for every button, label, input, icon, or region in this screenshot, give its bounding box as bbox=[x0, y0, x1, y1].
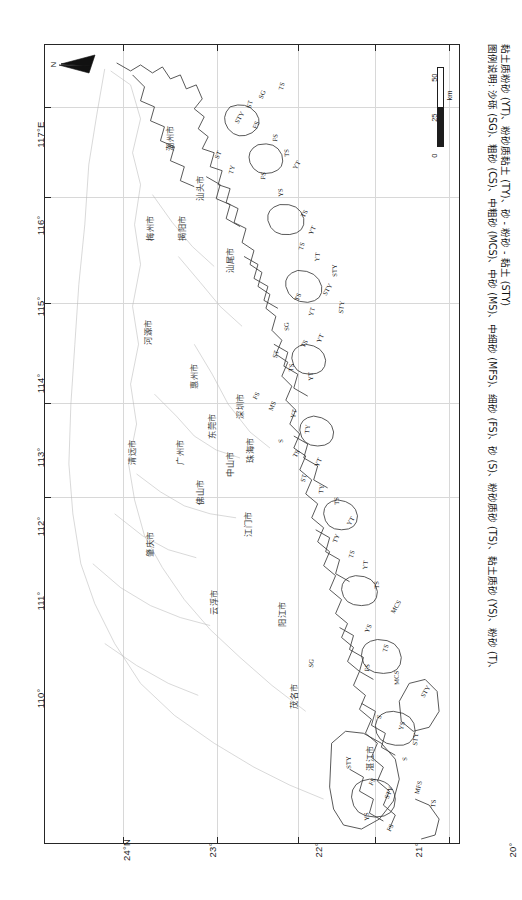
longitude-tick-label: 117°E bbox=[35, 122, 46, 162]
latitude-tick-label: 22° bbox=[313, 843, 324, 858]
north-arrow: N bbox=[51, 51, 97, 79]
city-label: 惠州市 bbox=[187, 363, 199, 389]
longitude-tick-label: 113° bbox=[35, 448, 46, 488]
sediment-code-label: STY bbox=[411, 732, 419, 745]
longitude-tick-label: 115° bbox=[35, 297, 46, 337]
city-label: 中山市 bbox=[223, 451, 235, 477]
sediment-code-label: STY bbox=[331, 264, 338, 277]
city-label: 揭阳市 bbox=[175, 215, 187, 241]
longitude-tick-label: 111° bbox=[35, 592, 46, 632]
caption-line-2: 黏土质粉砂 (YT)、粉砂质黏土 (TY)、砂 - 粉砂 - 黏土 (STY) bbox=[499, 44, 511, 844]
scale-bar-tick-25: 25 bbox=[430, 114, 439, 122]
sediment-code-label: TY bbox=[303, 424, 311, 434]
city-label: 佛山市 bbox=[193, 479, 205, 505]
sediment-code-label: TS bbox=[373, 581, 380, 589]
city-label: 梅州市 bbox=[143, 215, 155, 241]
longitude-tick-label: 114° bbox=[35, 374, 46, 414]
sediment-code-label: YS bbox=[277, 188, 284, 197]
map-frame: STYFSSTFSTSYTSTTYFSYSTSYTTSYTSTYSTYTSYTS… bbox=[44, 44, 460, 844]
sediment-code-label: YS bbox=[363, 812, 370, 821]
city-label: 广州市 bbox=[173, 439, 185, 465]
sediment-code-label: TS bbox=[429, 799, 437, 808]
city-label: 茂名市 bbox=[287, 683, 299, 709]
sediment-code-label: YT bbox=[307, 372, 314, 381]
latitude-tick-label: 23° bbox=[207, 843, 218, 858]
city-label: 云浮市 bbox=[207, 589, 219, 615]
caption-line-1: 图例说明: 沙砾 (SG)、粗砂 (CS)、中粗砂 (MCS)、中砂 (MS)、… bbox=[486, 44, 498, 844]
city-label: 湛江市 bbox=[363, 745, 375, 771]
city-label: 江门市 bbox=[241, 511, 253, 537]
city-label: 肇庆市 bbox=[143, 531, 155, 557]
city-label: 珠海市 bbox=[243, 437, 255, 463]
sediment-code-label: SG bbox=[283, 322, 290, 331]
sediment-code-label: FS bbox=[259, 171, 267, 179]
figure-caption: 图例说明: 沙砾 (SG)、粗砂 (CS)、中粗砂 (MCS)、中砂 (MS)、… bbox=[484, 44, 520, 844]
sediment-code-label: TY bbox=[317, 484, 325, 494]
figure-page: STYFSSTFSTSYTSTTYFSYSTSYTTSYTSTYSTYTSYTS… bbox=[0, 0, 522, 900]
sediment-code-label: FS bbox=[271, 133, 279, 141]
scale-bar-tick-0: 0 bbox=[430, 154, 439, 158]
longitude-tick-label: 116° bbox=[35, 216, 46, 256]
scale-bar-unit: km bbox=[445, 91, 454, 101]
latitude-tick-label: 21° bbox=[413, 843, 424, 858]
latitude-tick-label: 20° bbox=[507, 843, 518, 858]
sediment-code-label: SG bbox=[307, 658, 315, 667]
sediment-code-label: MCS bbox=[393, 671, 400, 685]
city-label: 清远市 bbox=[125, 439, 137, 465]
sediment-code-label: TS bbox=[287, 363, 295, 372]
sediment-code-label: STY bbox=[337, 300, 345, 313]
sediment-code-label: TS bbox=[283, 149, 290, 157]
longitude-tick-label: 110° bbox=[35, 689, 46, 729]
city-label: 阳江市 bbox=[275, 601, 287, 627]
north-arrow-label: N bbox=[49, 62, 58, 68]
city-label: 汕尾市 bbox=[223, 247, 235, 273]
sediment-code-label: FS bbox=[363, 663, 371, 671]
longitude-tick-label: 112° bbox=[35, 517, 46, 557]
sediment-code-label: STY bbox=[345, 756, 352, 769]
scale-bar: 0 25 50 km bbox=[423, 53, 453, 161]
city-label: 潮州市 bbox=[163, 125, 175, 151]
city-label: 河源市 bbox=[141, 319, 153, 345]
city-label: 深圳市 bbox=[233, 393, 245, 419]
sediment-code-label: YT bbox=[313, 252, 321, 262]
sediment-code-label: TS bbox=[333, 497, 340, 505]
sediment-code-label: YT bbox=[361, 560, 369, 570]
latitude-tick-label: 24°N bbox=[121, 839, 132, 861]
city-label: 东莞市 bbox=[205, 413, 217, 439]
scale-bar-tick-50: 50 bbox=[430, 74, 439, 82]
sediment-code-label: S bbox=[401, 757, 408, 761]
sediment-code-label: S bbox=[277, 439, 284, 443]
city-label: 汕头市 bbox=[193, 175, 205, 201]
